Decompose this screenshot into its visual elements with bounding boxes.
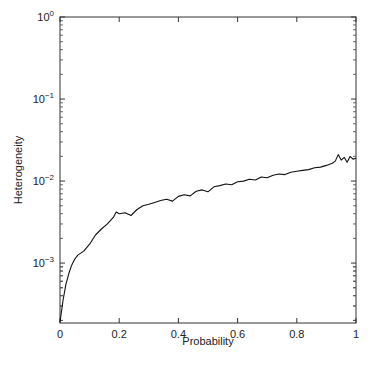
y-minor-ticks: [60, 21, 356, 321]
x-axis-title: Probability: [182, 335, 234, 347]
heterogeneity-chart: 10010−110−210−3 00.20.40.60.81 Probabili…: [0, 0, 378, 369]
plot-area: [60, 17, 356, 323]
x-tick-label: 1: [353, 328, 359, 340]
y-axis-title: Heterogeneity: [12, 135, 24, 204]
x-tick-label: 0.2: [112, 328, 127, 340]
x-ticks: [60, 17, 356, 323]
data-line: [60, 155, 356, 323]
x-tick-label: 0: [57, 328, 63, 340]
y-tick-label: 100: [37, 9, 54, 23]
y-tick-label: 10−1: [33, 91, 55, 105]
y-tick-labels: 10010−110−210−3: [33, 9, 55, 269]
x-tick-label: 0.8: [289, 328, 304, 340]
plot-frame: [60, 17, 356, 323]
y-tick-label: 10−3: [33, 255, 55, 269]
y-tick-label: 10−2: [33, 173, 55, 187]
